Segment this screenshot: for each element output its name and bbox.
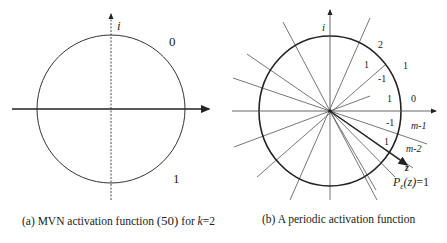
figure-a-diagram: i 0 1 (12, 14, 209, 200)
periodic-function-label: Pε(z)=1 (392, 175, 429, 191)
figure-canvas: i 0 1 i 2 1 0 m-1 m-2 1 -1 1 -1 (0, 0, 447, 243)
outer-label-0: 0 (411, 93, 416, 104)
sector-label-1: 1 (173, 171, 180, 186)
caption-a-eq: (50) (157, 213, 179, 228)
outer-label-2: 2 (378, 39, 383, 50)
imag-axis-label-a: i (117, 18, 121, 33)
sector-label-0: 0 (169, 34, 176, 49)
inner-label-neg1b: -1 (386, 117, 394, 128)
inner-label-neg1a: -1 (378, 73, 386, 84)
caption-a: (a) MVN activation function (50) for k=2 (22, 213, 215, 229)
caption-a-mid: for (178, 215, 197, 227)
outer-label-1: 1 (403, 60, 408, 71)
inner-label-1c: 1 (384, 136, 389, 147)
caption-a-suffix: =2 (203, 215, 215, 227)
inner-label-1b: 1 (387, 93, 392, 104)
caption-b: (b) A periodic activation function (262, 213, 415, 225)
figure-b-diagram: i 2 1 0 m-1 m-2 1 -1 1 -1 1 z Pε(z)=1 (232, 10, 436, 200)
outer-label-m-2: m-2 (406, 143, 422, 154)
z-vector-label: z (404, 162, 409, 173)
inner-label-1a: 1 (364, 59, 369, 70)
z-vector (330, 111, 407, 165)
outer-label-m-1: m-1 (411, 120, 427, 131)
caption-a-text: (a) MVN activation function (22, 215, 157, 227)
imag-axis-label-b: i (322, 21, 325, 33)
